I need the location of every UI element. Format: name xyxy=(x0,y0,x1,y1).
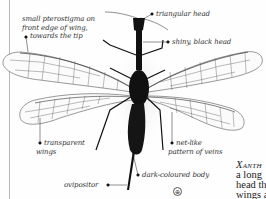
ovipositor xyxy=(127,150,135,190)
abdomen xyxy=(128,104,145,155)
label-triangular-head: triangular head xyxy=(156,10,210,19)
label-transparent-wings: transparent wings xyxy=(44,139,85,156)
prothorax xyxy=(136,30,142,70)
label-shiny-black-head: shiny, black head xyxy=(172,38,231,47)
species-caption: Xanth a long head th wings a xyxy=(236,160,266,199)
label-pterostigma: small pterostigma on front edge of wing,… xyxy=(22,15,95,41)
book-page: small pterostigma on front edge of wing,… xyxy=(0,0,266,199)
label-ovipositor: ovipositor xyxy=(64,181,98,190)
head xyxy=(133,18,145,32)
thorax xyxy=(129,70,149,106)
label-net-like-veins: net-like pattern of veins xyxy=(176,139,222,156)
locator-icon: ⊕ xyxy=(173,187,182,196)
label-dark-body: dark-coloured body xyxy=(142,171,209,180)
